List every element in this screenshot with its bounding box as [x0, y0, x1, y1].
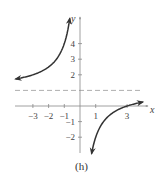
y-tick-label: 3	[71, 54, 76, 64]
function-graph: −3−2−113432−1−2 x y	[0, 0, 163, 181]
y-axis-label: y	[70, 13, 76, 24]
x-axis-label: x	[149, 104, 155, 115]
x-tick-label: −2	[44, 111, 54, 121]
right-branch-curve	[92, 102, 143, 154]
left-branch-curve	[16, 18, 70, 79]
curves	[16, 18, 143, 153]
figure-caption: (h)	[0, 160, 163, 172]
y-tick-label: −2	[65, 132, 75, 142]
y-tick-label: 2	[71, 70, 76, 80]
axes	[15, 17, 148, 153]
x-tick-label: −3	[28, 111, 38, 121]
y-tick-label: −1	[65, 117, 75, 127]
x-tick-label: 3	[125, 111, 130, 121]
y-tick-label: 4	[71, 39, 76, 49]
x-tick-label: 1	[93, 111, 98, 121]
